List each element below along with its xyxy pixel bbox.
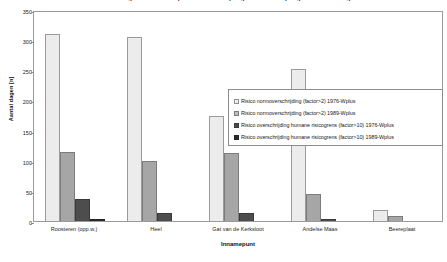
legend-label: Risico overschrijding humane risicogrens… (241, 134, 394, 140)
bar (209, 116, 224, 222)
y-tick-mark (31, 72, 34, 73)
y-tick-label: 0 (2, 220, 32, 226)
bar (90, 219, 105, 221)
bar-chart: Aantal dagen met risico op normoverschri… (0, 0, 447, 262)
y-tick-mark (31, 163, 34, 164)
x-tick-label: Beereplaat (389, 226, 416, 232)
x-tick-label: Gat van de Kerksloot (212, 226, 263, 232)
y-tick-mark (31, 102, 34, 103)
bar (75, 199, 90, 221)
legend-label: Risico normoverschrijding (factor>2) 198… (241, 110, 355, 116)
y-tick-label: 150 (2, 130, 32, 136)
y-tick-label: 250 (2, 69, 32, 75)
y-tick-label: 100 (2, 160, 32, 166)
y-tick-mark (31, 12, 34, 13)
legend-label: Risico normoverschrijding (factor>2) 197… (241, 98, 355, 104)
x-tick-label: Roosteren (opp.w.) (51, 226, 97, 232)
bar (239, 213, 254, 221)
y-tick-mark (31, 42, 34, 43)
legend-item: Risico normoverschrijding (factor>2) 198… (234, 107, 442, 119)
bar (60, 152, 75, 221)
bar (45, 34, 60, 221)
legend-swatch-icon (234, 99, 239, 104)
chart-legend: Risico normoverschrijding (factor>2) 197… (228, 89, 443, 146)
y-tick-mark (31, 223, 34, 224)
bar (321, 219, 336, 221)
legend-item: Risico overschrijding humane risicogrens… (234, 131, 442, 143)
x-tick-label: Andelse Maas (303, 226, 338, 232)
bar (388, 216, 403, 221)
chart-title: Aantal dagen met risico op normoverschri… (60, 0, 410, 1)
bar (157, 213, 172, 221)
bar-group (44, 12, 106, 221)
legend-item: Risico normoverschrijding (factor>2) 197… (234, 95, 442, 107)
legend-swatch-icon (234, 135, 239, 140)
y-tick-label: 200 (2, 99, 32, 105)
x-axis-title: Innamepunt (33, 241, 443, 247)
legend-swatch-icon (234, 123, 239, 128)
bar (373, 210, 388, 221)
y-tick-mark (31, 133, 34, 134)
legend-item: Risico overschrijding humane risicogrens… (234, 119, 442, 131)
y-tick-label: 300 (2, 39, 32, 45)
bar (142, 161, 157, 221)
x-tick-label: Heel (150, 226, 161, 232)
y-tick-mark (31, 193, 34, 194)
bar (306, 194, 321, 221)
y-tick-label: 50 (2, 190, 32, 196)
bar-group (126, 12, 188, 221)
legend-label: Risico overschrijding humane risicogrens… (241, 122, 394, 128)
bar (127, 37, 142, 221)
bar (224, 153, 239, 221)
y-tick-label: 350 (2, 9, 32, 15)
legend-swatch-icon (234, 111, 239, 116)
